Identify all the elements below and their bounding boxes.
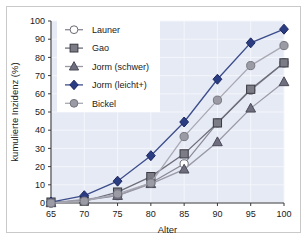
- data-point: [213, 119, 221, 127]
- legend: LaunerGaoJorm (schwer)Jorm (leicht+)Bick…: [57, 20, 160, 112]
- data-point: [113, 190, 121, 198]
- legend-label: Jorm (schwer): [92, 62, 149, 72]
- y-tick-label: 10: [35, 180, 45, 190]
- legend-marker-sample: [70, 26, 78, 34]
- data-point: [180, 132, 188, 140]
- data-point: [80, 197, 88, 205]
- y-tick-label: 40: [35, 125, 45, 135]
- figure-container: 65707580859095100 0102030405060708090100…: [0, 0, 308, 247]
- line-chart: 65707580859095100 0102030405060708090100…: [0, 0, 308, 247]
- y-tick-label: 60: [35, 89, 45, 99]
- legend-label: Jorm (leicht+): [92, 80, 147, 90]
- legend-label: Bickel: [92, 99, 116, 109]
- y-tick-label: 0: [40, 198, 45, 208]
- x-tick-label: 70: [79, 209, 89, 219]
- data-point: [247, 85, 255, 93]
- x-tick-label: 65: [46, 209, 56, 219]
- legend-label: Launer: [92, 25, 120, 35]
- y-tick-label: 80: [35, 53, 45, 63]
- y-tick-label: 100: [30, 16, 45, 26]
- x-tick-label: 75: [113, 209, 123, 219]
- chart-area: 65707580859095100 0102030405060708090100…: [0, 0, 308, 247]
- x-tick-label: 80: [146, 209, 156, 219]
- x-tick-labels: 65707580859095100: [46, 209, 292, 219]
- x-axis-label: Alter: [158, 224, 178, 235]
- legend-marker-sample: [70, 99, 78, 107]
- data-point: [180, 150, 188, 158]
- x-tick-label: 100: [276, 209, 291, 219]
- x-tick-label: 95: [246, 209, 256, 219]
- x-tick-label: 90: [212, 209, 222, 219]
- x-tick-label: 85: [179, 209, 189, 219]
- y-tick-label: 70: [35, 71, 45, 81]
- data-point: [213, 96, 221, 104]
- data-point: [280, 41, 288, 49]
- y-axis-label: kumulierte Inzidenz (%): [9, 62, 20, 161]
- data-point: [280, 59, 288, 67]
- y-tick-label: 30: [35, 144, 45, 154]
- y-tick-label: 20: [35, 162, 45, 172]
- data-point: [247, 61, 255, 69]
- y-tick-label: 50: [35, 107, 45, 117]
- legend-label: Gao: [92, 43, 109, 53]
- y-tick-label: 90: [35, 34, 45, 44]
- legend-marker-sample: [70, 44, 78, 52]
- y-tick-labels: 0102030405060708090100: [30, 16, 45, 208]
- data-point: [147, 179, 155, 187]
- data-point: [47, 199, 55, 207]
